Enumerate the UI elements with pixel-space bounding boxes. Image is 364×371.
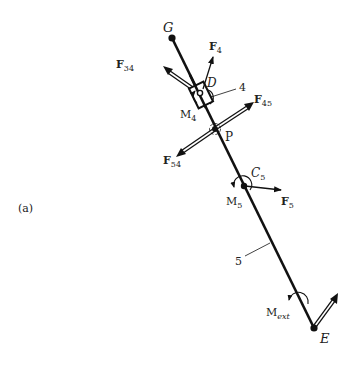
moment-m4-label: M4 (180, 108, 196, 123)
slider-label-4: 4 (239, 81, 246, 94)
point-e-dot (310, 324, 317, 331)
link-label-5: 5 (235, 255, 242, 268)
point-p-label: P (225, 130, 233, 144)
force-f54-arrow (176, 130, 214, 157)
force-f34-label: F34 (116, 58, 134, 73)
point-g-dot (168, 34, 175, 41)
point-c5-label: C5 (251, 166, 265, 182)
panel-label: (a) (18, 202, 33, 215)
leader-line-5 (245, 243, 270, 256)
leader-line-4 (211, 89, 236, 97)
free-body-diagram: (a) G F34 F4 D M4 4 F45 F54 (0, 0, 364, 371)
point-e-label: E (319, 331, 330, 346)
point-d-pin (197, 90, 202, 95)
force-f45-label: F45 (254, 93, 272, 108)
point-g-label: G (163, 20, 173, 35)
force-f45-arrow (216, 102, 254, 128)
force-e-arrow (315, 293, 338, 326)
moment-mext-label: Mext (266, 306, 291, 321)
moment-m5-label: M5 (226, 195, 242, 210)
point-d-label: D (206, 76, 217, 90)
force-f4-label: F4 (209, 40, 222, 55)
force-f5-label: F5 (281, 195, 294, 210)
